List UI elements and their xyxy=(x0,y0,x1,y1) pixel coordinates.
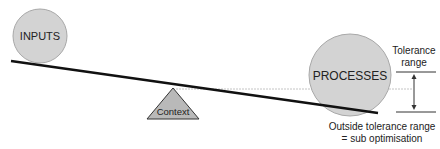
arrow-down-icon xyxy=(412,105,417,110)
arrow-up-icon xyxy=(412,74,417,79)
outside-label-line2: = sub optimisation xyxy=(342,133,423,144)
processes-label: PROCESSES xyxy=(313,69,388,83)
inputs-circle: INPUTS xyxy=(13,9,67,63)
tolerance-range-marker xyxy=(396,72,436,112)
inputs-label: INPUTS xyxy=(20,30,60,42)
balance-diagram: INPUTS PROCESSES Context Tolerance range… xyxy=(0,0,440,149)
outside-label-line1: Outside tolerance range xyxy=(329,121,436,132)
processes-circle: PROCESSES xyxy=(309,34,391,116)
tolerance-label-line1: Tolerance xyxy=(392,45,436,56)
fulcrum-triangle: Context xyxy=(147,88,199,119)
context-label: Context xyxy=(157,106,190,117)
tolerance-label-line2: range xyxy=(401,57,427,68)
